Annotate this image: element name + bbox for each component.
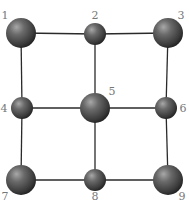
sphere-node-8 <box>84 169 106 191</box>
node-label-3: 3 <box>178 9 185 22</box>
node-label-9: 9 <box>179 190 186 202</box>
node-label-7: 7 <box>2 190 9 202</box>
sphere-node-2 <box>84 23 106 45</box>
sphere-node-5 <box>80 93 110 123</box>
sphere-node-4 <box>11 97 33 119</box>
sphere-node-6 <box>155 97 177 119</box>
node-label-1: 1 <box>2 9 9 22</box>
node-label-4: 4 <box>1 102 8 115</box>
sphere-node-1 <box>6 18 36 48</box>
node-label-5: 5 <box>109 85 116 98</box>
sphere-node-7 <box>6 165 36 195</box>
sphere-node-3 <box>153 18 183 48</box>
grid-graph-diagram: 123456789 <box>0 0 189 202</box>
node-label-2: 2 <box>92 9 99 22</box>
node-label-8: 8 <box>92 190 99 202</box>
node-label-6: 6 <box>180 102 187 115</box>
